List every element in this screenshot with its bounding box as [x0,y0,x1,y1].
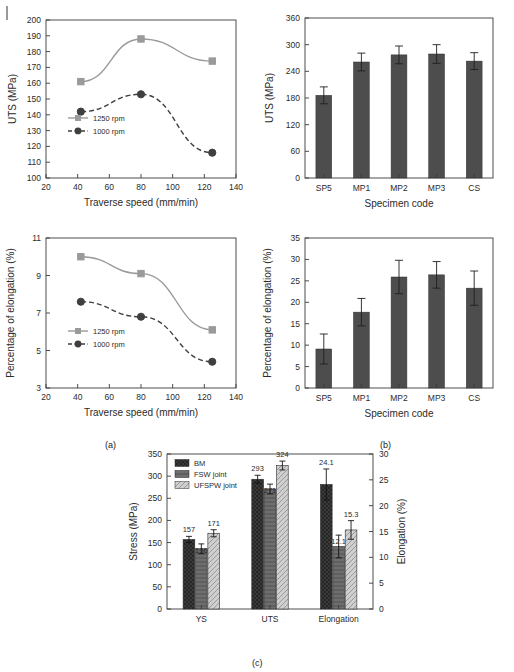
x-tick-label: 60 [105,392,115,402]
x-tick-label-MP3: MP3 [428,393,446,403]
legend-label-0: BM [194,459,205,468]
y-tick-label: 300 [286,40,300,50]
x-tick-label: 100 [166,392,180,402]
figure-page: 2040608010012014010011012013014015016017… [0,0,514,672]
caption-c-label: (c) [252,658,263,668]
series-line-0 [81,39,212,82]
x-axis-title: Traverse speed (mm/min) [84,197,198,208]
data-point-0-0 [78,78,84,84]
series-line-1 [81,94,212,152]
y-tick-label: 5 [36,346,41,356]
y-tick-label: 100 [27,173,41,183]
bar-value-label: 136 [195,546,208,555]
y-tick-label: 7 [36,308,41,318]
legend-marker-1 [75,128,82,135]
chart-elongation-specimen-bar: 05101520253035SP5MP1MP2MP3CSSpecimen cod… [257,228,514,438]
y2-axis-title: Elongation (%) [396,499,407,565]
x-tick-label-UTS: UTS [262,614,279,624]
legend-swatch-0 [175,460,189,467]
bar-SP5 [316,95,332,178]
y2-tick-label: 30 [379,449,389,459]
bar-YS-UFSPW-joint [208,533,220,609]
y-tick-label: 100 [148,560,162,570]
x-tick-label-YS: YS [196,614,208,624]
bar-value-label: 293 [251,464,264,473]
y-axis-title: Stress (MPa) [128,502,139,560]
x-tick-label-SP5: SP5 [316,183,332,193]
chart-uts-traverse-svg: 2040608010012014010011012013014015016017… [0,6,257,228]
x-tick-label: 60 [105,182,115,192]
data-point-0-1 [138,36,144,42]
y-tick-label: 240 [286,66,300,76]
y-tick-label: 35 [291,233,301,243]
caption-a-label: (a) [105,440,116,450]
y2-tick-label: 20 [379,501,389,511]
y-tick-label: 110 [27,157,41,167]
y-axis-title: Percentage of elongation (%) [5,248,16,378]
x-tick-label-SP5: SP5 [316,393,332,403]
bar-value-label: 271 [264,486,277,495]
legend-label-0: 1250 rpm [93,114,125,123]
x-tick-label: 20 [41,392,51,402]
bar-value-label: 15.3 [344,510,359,519]
bar-value-label: 24.1 [319,458,334,467]
plot-frame [46,20,236,178]
x-tick-label: 80 [136,182,146,192]
x-tick-label: 120 [197,182,211,192]
y-tick-label: 50 [153,582,163,592]
x-tick-label-Elongation: Elongation [319,614,359,624]
bar-value-label: 157 [183,525,196,534]
x-tick-label: 40 [73,392,83,402]
data-point-1-1 [137,91,144,98]
y-tick-label: 180 [27,47,41,57]
data-point-1-2 [209,149,216,156]
y-tick-label: 180 [286,93,300,103]
y-tick-label: 20 [291,297,301,307]
caption-c: (c) [252,652,263,670]
y-tick-label: 300 [148,471,162,481]
legend-label-2: UFSPW joint [194,481,238,490]
legend-swatch-2 [175,482,189,489]
y2-tick-label: 10 [379,552,389,562]
data-point-1-0 [77,298,84,305]
chart-elongation-traverse-line: 20406080100120140357911Traverse speed (m… [0,228,257,438]
legend-label-0: 1250 rpm [93,327,125,336]
x-tick-label: 80 [136,392,146,402]
x-tick-label-CS: CS [468,183,480,193]
legend-label-1: 1000 rpm [93,127,125,136]
y-tick-label: 160 [27,78,41,88]
x-tick-label-MP2: MP2 [390,393,408,403]
x-axis-title: Traverse speed (mm/min) [84,407,198,418]
y-axis-title: UTS (MPa) [7,74,18,124]
y-tick-label: 30 [291,254,301,264]
data-point-0-2 [209,58,215,64]
y-tick-label: 150 [148,538,162,548]
y-tick-label: 25 [291,276,301,286]
y-tick-label: 200 [148,515,162,525]
chart-elongation-traverse-svg: 20406080100120140357911Traverse speed (m… [0,228,257,438]
y2-tick-label: 15 [379,527,389,537]
x-tick-label-CS: CS [468,393,480,403]
y-tick-label: 170 [27,62,41,72]
x-axis-title: Specimen code [365,408,434,419]
bar-MP3 [429,54,445,178]
data-point-0-1 [138,270,144,276]
legend-marker-0 [75,115,81,121]
bar-CS [466,61,482,178]
bar-UTS-BM [252,479,264,609]
x-tick-label-MP2: MP2 [390,183,408,193]
legend-label-1: FSW joint [194,470,227,479]
caption-a: (a) [105,434,116,452]
x-tick-label: 140 [229,182,243,192]
y-tick-label: 350 [148,449,162,459]
y-tick-label: 140 [27,110,41,120]
y-tick-label: 200 [27,15,41,25]
chart-uts-specimen-bar: 060120180240300360SP5MP1MP2MP3CSSpecimen… [257,6,514,228]
bar-value-label: 324 [276,450,289,459]
legend-marker-1 [75,341,82,348]
data-point-1-2 [209,358,216,365]
y-tick-label: 9 [36,271,41,281]
y-tick-label: 150 [27,94,41,104]
x-tick-label: 120 [197,392,211,402]
y-tick-label: 120 [286,120,300,130]
